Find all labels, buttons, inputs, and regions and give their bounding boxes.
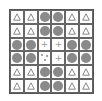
- circle-icon: [81, 40, 91, 50]
- triangle-icon: [27, 82, 35, 90]
- grid-cell[interactable]: [65, 79, 79, 93]
- triangle-icon: [27, 13, 35, 21]
- circle-icon: [67, 40, 77, 50]
- grid-cell[interactable]: +: [51, 38, 65, 52]
- grid-cell[interactable]: [51, 79, 65, 93]
- puzzle-grid: +++: [9, 9, 94, 94]
- triangle-icon: [82, 68, 90, 76]
- grid-cell[interactable]: [10, 24, 24, 38]
- grid-cell[interactable]: [10, 10, 24, 24]
- circle-icon: [53, 26, 63, 36]
- circle-icon: [67, 53, 77, 63]
- grid-cell[interactable]: [24, 51, 38, 65]
- circle-icon: [81, 53, 91, 63]
- grid-cell[interactable]: [79, 65, 93, 79]
- grid-cell[interactable]: [79, 79, 93, 93]
- triangle-icon: [82, 82, 90, 90]
- grid-cell[interactable]: [79, 38, 93, 52]
- triangle-icon: [27, 27, 35, 35]
- grid-cell[interactable]: [51, 10, 65, 24]
- grid-cell[interactable]: [38, 10, 52, 24]
- grid-cell[interactable]: [38, 65, 52, 79]
- plus-icon: +: [55, 54, 63, 63]
- grid-cell[interactable]: [24, 10, 38, 24]
- triangle-icon: [68, 13, 76, 21]
- circle-icon: [26, 40, 36, 50]
- plus-icon: +: [41, 40, 49, 49]
- grid-cell[interactable]: [10, 65, 24, 79]
- plus-icon: +: [55, 40, 63, 49]
- grid-cell[interactable]: [24, 24, 38, 38]
- triangle-icon: [13, 27, 21, 35]
- grid-cell[interactable]: [65, 24, 79, 38]
- circle-icon: [53, 12, 63, 22]
- circle-icon: [53, 81, 63, 91]
- grid-cell[interactable]: [51, 65, 65, 79]
- circle-icon: [40, 12, 50, 22]
- grid-cell[interactable]: [10, 51, 24, 65]
- circle-icon: [53, 67, 63, 77]
- grid-cell[interactable]: [51, 24, 65, 38]
- grid-cell[interactable]: [65, 51, 79, 65]
- circle-icon: [26, 53, 36, 63]
- dot: [46, 55, 48, 57]
- triangle-icon: [68, 68, 76, 76]
- grid-cell[interactable]: [79, 10, 93, 24]
- grid-cell[interactable]: [79, 24, 93, 38]
- triangle-icon: [13, 68, 21, 76]
- grid-cell[interactable]: [79, 51, 93, 65]
- grid-cell[interactable]: [65, 38, 79, 52]
- grid-cell[interactable]: +: [38, 38, 52, 52]
- circle-icon: [12, 53, 22, 63]
- triangle-icon: [68, 82, 76, 90]
- dot: [44, 59, 46, 61]
- grid-cell[interactable]: [24, 65, 38, 79]
- grid-cell[interactable]: [10, 79, 24, 93]
- grid-cell[interactable]: [65, 10, 79, 24]
- dots-icon: [41, 54, 49, 62]
- triangle-icon: [13, 13, 21, 21]
- grid-cell[interactable]: [10, 38, 24, 52]
- circle-icon: [12, 40, 22, 50]
- triangle-icon: [68, 27, 76, 35]
- triangle-icon: [82, 27, 90, 35]
- grid-cell[interactable]: [24, 79, 38, 93]
- grid-cell[interactable]: [38, 51, 52, 65]
- grid-cell[interactable]: +: [51, 51, 65, 65]
- grid-cell[interactable]: [38, 79, 52, 93]
- grid-cell[interactable]: [38, 24, 52, 38]
- circle-icon: [40, 81, 50, 91]
- grid-cell[interactable]: [24, 38, 38, 52]
- circle-icon: [40, 67, 50, 77]
- circle-icon: [40, 26, 50, 36]
- triangle-icon: [27, 68, 35, 76]
- grid-cell[interactable]: [65, 65, 79, 79]
- dot: [41, 54, 43, 56]
- triangle-icon: [13, 82, 21, 90]
- triangle-icon: [82, 13, 90, 21]
